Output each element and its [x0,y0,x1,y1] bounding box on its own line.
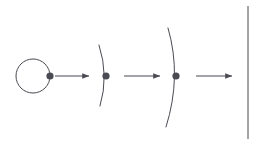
wavefront-dot-2 [102,72,109,79]
wavefront-dot-1 [46,72,53,79]
diagram-canvas [0,0,263,144]
wavefront-diagram [0,0,263,144]
point-source-circle [16,59,50,93]
wavefront-dot-3 [172,72,179,79]
